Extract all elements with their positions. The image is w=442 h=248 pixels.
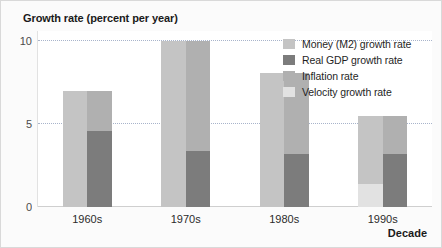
y-tick-label-10: 10 xyxy=(20,35,32,47)
bar-segment xyxy=(161,41,186,207)
bar-segment xyxy=(284,154,309,207)
x-axis-caption: Decade xyxy=(388,227,427,239)
y-tick-label-5: 5 xyxy=(26,118,32,130)
legend-swatch-icon xyxy=(283,71,295,81)
bar-segment xyxy=(260,73,285,207)
bar-segment xyxy=(358,184,383,207)
bar-column-right xyxy=(186,31,211,207)
legend-swatch-icon xyxy=(283,87,295,97)
legend-item-label: Real GDP growth rate xyxy=(302,54,403,66)
y-axis-caption: Growth rate (percent per year) xyxy=(23,12,178,24)
legend-item[interactable]: Velocity growth rate xyxy=(283,84,435,99)
legend-item-label: Inflation rate xyxy=(302,70,358,82)
bar-segment xyxy=(87,131,112,207)
chart-legend: Money (M2) growth rateReal GDP growth ra… xyxy=(283,36,435,100)
legend-item[interactable]: Money (M2) growth rate xyxy=(283,36,435,51)
legend-item-label: Velocity growth rate xyxy=(302,86,392,98)
y-tick-label-0: 0 xyxy=(26,201,32,213)
bar-segment xyxy=(87,91,112,131)
bar-segment xyxy=(358,116,383,184)
bar-group: 1970s xyxy=(161,31,210,207)
legend-swatch-icon xyxy=(283,39,295,49)
bar-segment xyxy=(383,116,408,154)
bar-column-right xyxy=(87,31,112,207)
x-tick-label: 1960s xyxy=(63,213,112,225)
bar-group: 1960s xyxy=(63,31,112,207)
bar-segment xyxy=(383,154,408,207)
x-tick-label: 1990s xyxy=(358,213,407,225)
bar-segment xyxy=(186,41,211,151)
legend-swatch-icon xyxy=(283,55,295,65)
bar-column-left xyxy=(260,31,285,207)
bar-segment xyxy=(63,91,88,207)
chart-figure: Growth rate (percent per year) 0510 1960… xyxy=(0,0,442,248)
bar-column-left xyxy=(63,31,88,207)
bar-column-left xyxy=(161,31,186,207)
legend-item-label: Money (M2) growth rate xyxy=(302,38,411,50)
legend-item[interactable]: Inflation rate xyxy=(283,68,435,83)
legend-item[interactable]: Real GDP growth rate xyxy=(283,52,435,67)
x-tick-label: 1980s xyxy=(260,213,309,225)
bar-segment xyxy=(186,151,211,207)
x-tick-label: 1970s xyxy=(161,213,210,225)
